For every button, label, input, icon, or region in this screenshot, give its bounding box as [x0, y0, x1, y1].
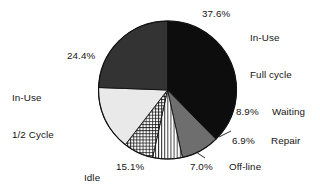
pie-slice-in-use-1-2-cycle: [99, 21, 168, 90]
slice-label-repair: Repair: [271, 135, 300, 147]
slice-label-in-use-full-cycle-line1: In-Use: [250, 32, 292, 44]
slice-label-waiting: Waiting: [272, 106, 305, 118]
slice-pct-idle: 15.1%: [116, 161, 144, 173]
slice-pct-repair: 6.9%: [232, 135, 255, 147]
slice-label-offline: Off-line: [229, 161, 261, 173]
pie-chart-figure: 37.6% In-Use Full cycle 24.4% In-Use 1/2…: [0, 0, 320, 188]
slice-pct-waiting: 8.9%: [236, 106, 259, 118]
slice-label-in-use-half-cycle-line2: 1/2 Cycle: [12, 129, 54, 141]
slice-pct-in-use-full-cycle: 37.6%: [202, 8, 230, 20]
leader-line-offline: [196, 152, 205, 158]
slice-label-in-use-full-cycle-line2: Full cycle: [250, 69, 292, 81]
slice-pct-in-use-half-cycle: 24.4%: [67, 50, 95, 62]
slice-label-in-use-half-cycle-line1: In-Use: [12, 92, 54, 104]
slice-label-in-use-half-cycle: In-Use 1/2 Cycle: [12, 68, 54, 166]
slice-label-idle: Idle: [84, 172, 100, 184]
pie-slices-group: [99, 21, 237, 159]
slice-label-in-use-full-cycle: In-Use Full cycle: [250, 8, 292, 106]
slice-pct-offline: 7.0%: [190, 161, 213, 173]
